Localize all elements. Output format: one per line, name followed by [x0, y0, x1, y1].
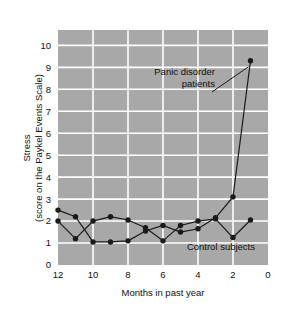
chart-figure: 012345678910 121086420 Months in past ye…	[0, 0, 291, 313]
data-point	[230, 194, 235, 199]
annotation-panic-disorder-line2: patients	[182, 78, 216, 89]
data-point	[178, 229, 183, 234]
data-point	[125, 217, 130, 222]
y-tick-label-6: 6	[46, 128, 51, 139]
x-tick-label-8: 8	[125, 269, 130, 280]
x-tick-label-10: 10	[88, 269, 99, 280]
y-tick-label-8: 8	[46, 84, 51, 95]
data-point	[55, 207, 60, 212]
data-point	[195, 226, 200, 231]
data-point	[125, 238, 130, 243]
data-point	[90, 239, 95, 244]
data-point	[195, 218, 200, 223]
data-point	[108, 239, 113, 244]
data-point	[213, 216, 218, 221]
y-axis-title-primary: Stress	[21, 134, 32, 161]
data-point	[90, 218, 95, 223]
data-point	[143, 225, 148, 230]
data-point	[108, 214, 113, 219]
y-tick-label-0: 0	[46, 259, 51, 270]
y-tick-label-9: 9	[46, 62, 51, 73]
x-tick-label-12: 12	[53, 269, 64, 280]
data-point	[55, 218, 60, 223]
data-point	[160, 238, 165, 243]
y-tick-label-2: 2	[46, 215, 51, 226]
annotation-panic-disorder-line1: Panic disorder	[154, 66, 215, 77]
y-tick-label-1: 1	[46, 237, 51, 248]
y-tick-label-10: 10	[40, 40, 51, 51]
data-point	[160, 223, 165, 228]
y-tick-label-4: 4	[46, 172, 51, 183]
y-tick-label-7: 7	[46, 106, 51, 117]
x-tick-label-0: 0	[265, 269, 270, 280]
x-axis-title: Months in past year	[122, 287, 205, 298]
x-tick-label-4: 4	[195, 269, 200, 280]
stress-line-chart: 012345678910 121086420 Months in past ye…	[0, 0, 291, 313]
y-tick-label-3: 3	[46, 194, 51, 205]
data-point	[178, 223, 183, 228]
data-point	[230, 235, 235, 240]
y-tick-label-5: 5	[46, 150, 51, 161]
data-point	[248, 58, 253, 63]
data-point	[73, 214, 78, 219]
annotation-control-subjects: Control subjects	[187, 241, 255, 252]
data-point	[73, 236, 78, 241]
x-tick-label-2: 2	[230, 269, 235, 280]
data-point	[248, 217, 253, 222]
y-axis-title-secondary: (score on the Paykel Events Scale)	[33, 74, 44, 222]
x-tick-label-6: 6	[160, 269, 165, 280]
